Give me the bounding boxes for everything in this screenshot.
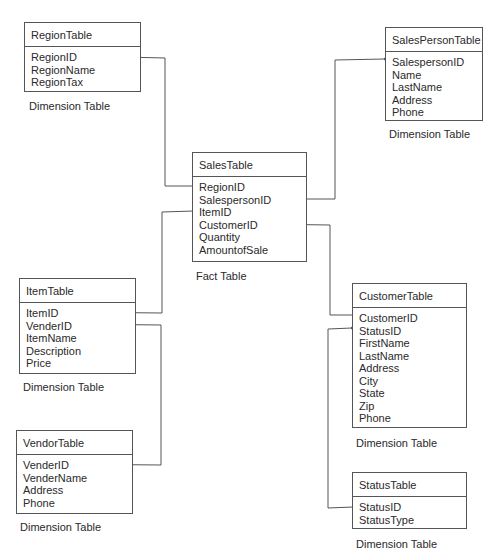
field-vender-id: VenderID	[26, 320, 129, 333]
vendor-table-fields: VenderID VenderName Address Phone	[17, 455, 132, 514]
field-description: Description	[26, 345, 129, 358]
salesperson-table-fields: SalespersonID Name LastName Address Phon…	[386, 52, 482, 124]
status-table: StatusTable StatusID StatusType	[352, 472, 467, 529]
field-status-id: StatusID	[359, 501, 460, 514]
field-first-name: FirstName	[359, 337, 460, 350]
salesperson-table: SalesPersonTable SalespersonID Name Last…	[385, 27, 483, 121]
salesperson-table-title: SalesPersonTable	[386, 28, 482, 52]
field-amount-of-sale: AmountofSale	[199, 244, 300, 257]
field-last-name: LastName	[359, 350, 460, 363]
field-region-tax: RegionTax	[31, 76, 134, 89]
field-region-name: RegionName	[31, 64, 134, 77]
status-table-fields: StatusID StatusType	[353, 497, 466, 531]
salesperson-table-caption: Dimension Table	[389, 128, 470, 140]
field-zip: Zip	[359, 400, 460, 413]
field-region-id: RegionID	[31, 51, 134, 64]
field-salesperson-id: SalespersonID	[392, 56, 476, 69]
field-salesperson-id: SalespersonID	[199, 194, 300, 207]
region-table: RegionTable RegionID RegionName RegionTa…	[24, 22, 141, 92]
field-phone: Phone	[23, 497, 126, 510]
field-address: Address	[359, 362, 460, 375]
customer-table: CustomerTable CustomerID StatusID FirstN…	[352, 283, 467, 428]
sales-table-caption: Fact Table	[196, 270, 247, 282]
field-vender-id: VenderID	[23, 459, 126, 472]
vendor-table-caption: Dimension Table	[20, 521, 101, 533]
field-name: Name	[392, 69, 476, 82]
field-item-id: ItemID	[26, 307, 129, 320]
customer-table-title: CustomerTable	[353, 284, 466, 308]
field-phone: Phone	[392, 106, 476, 119]
field-phone: Phone	[359, 412, 460, 425]
field-status-type: StatusType	[359, 514, 460, 527]
field-address: Address	[23, 484, 126, 497]
field-address: Address	[392, 94, 476, 107]
field-price: Price	[26, 357, 129, 370]
field-status-id: StatusID	[359, 325, 460, 338]
status-table-caption: Dimension Table	[356, 538, 437, 550]
field-quantity: Quantity	[199, 231, 300, 244]
item-table-title: ItemTable	[20, 279, 135, 303]
field-last-name: LastName	[392, 81, 476, 94]
vendor-table-title: VendorTable	[17, 431, 132, 455]
customer-table-caption: Dimension Table	[356, 437, 437, 449]
item-table-fields: ItemID VenderID ItemName Description Pri…	[20, 303, 135, 375]
field-customer-id: CustomerID	[199, 219, 300, 232]
item-table-caption: Dimension Table	[23, 381, 104, 393]
region-table-title: RegionTable	[25, 23, 140, 47]
field-item-name: ItemName	[26, 332, 129, 345]
sales-table-fields: RegionID SalespersonID ItemID CustomerID…	[193, 177, 306, 261]
sales-table: SalesTable RegionID SalespersonID ItemID…	[192, 152, 307, 262]
vendor-table: VendorTable VenderID VenderName Address …	[16, 430, 133, 514]
field-item-id: ItemID	[199, 206, 300, 219]
link-customer-status	[328, 328, 353, 508]
sales-table-title: SalesTable	[193, 153, 306, 177]
region-table-fields: RegionID RegionName RegionTax	[25, 47, 140, 94]
status-table-title: StatusTable	[353, 473, 466, 497]
item-table: ItemTable ItemID VenderID ItemName Descr…	[19, 278, 136, 374]
field-region-id: RegionID	[199, 181, 300, 194]
customer-table-fields: CustomerID StatusID FirstName LastName A…	[353, 308, 466, 430]
field-vender-name: VenderName	[23, 472, 126, 485]
field-city: City	[359, 375, 460, 388]
field-state: State	[359, 387, 460, 400]
region-table-caption: Dimension Table	[29, 100, 110, 112]
field-customer-id: CustomerID	[359, 312, 460, 325]
